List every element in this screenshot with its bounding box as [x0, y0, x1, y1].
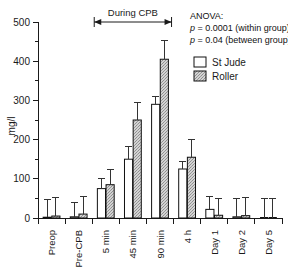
bar-st-jude — [206, 209, 214, 218]
legend-label-st-jude: St Jude — [212, 57, 246, 68]
serum-concentration-bar-chart: 0100200300400500 PreopPre-CPB5 min45 min… — [0, 0, 288, 273]
anova-between-group-line: p = 0.04 (between group) — [189, 35, 288, 45]
category-label: 4 h — [182, 230, 193, 243]
legend-label-roller: Roller — [212, 71, 239, 82]
y-axis-tick-label: 0 — [24, 213, 30, 224]
category-label: Preop — [46, 230, 57, 255]
y-axis-tick-label: 500 — [13, 17, 30, 28]
bar-roller — [160, 59, 168, 218]
bar-roller — [187, 157, 195, 218]
bar-st-jude — [43, 217, 51, 218]
bar-roller — [79, 214, 87, 218]
chart-figure: 0100200300400500 PreopPre-CPB5 min45 min… — [0, 0, 288, 273]
legend-swatch-st-jude — [194, 57, 206, 67]
y-axis-tick-label: 100 — [13, 173, 30, 184]
span-label-during-cpb: During CPB — [108, 7, 158, 18]
anova-heading: ANOVA: — [190, 11, 223, 21]
y-axis-title: mg/l — [6, 117, 17, 136]
anova-within-group-line: p = 0.0001 (within group) — [189, 23, 288, 33]
category-label: Pre-CPB — [73, 230, 84, 267]
y-axis-tick-label: 400 — [13, 56, 30, 67]
category-label: Day 2 — [236, 230, 247, 255]
legend-swatch-roller — [194, 71, 206, 81]
bar-st-jude — [179, 169, 187, 218]
bar-roller — [214, 215, 222, 218]
y-axis-tick-label: 300 — [13, 95, 30, 106]
bar-roller — [106, 185, 114, 218]
bar-roller — [133, 120, 141, 218]
bar-st-jude — [152, 104, 160, 218]
bar-roller — [52, 216, 60, 218]
bar-st-jude — [97, 189, 105, 218]
category-label: 5 min — [100, 230, 111, 253]
category-label: 45 min — [127, 230, 138, 259]
bar-st-jude — [70, 217, 78, 218]
bar-st-jude — [233, 217, 241, 218]
category-label: Day 5 — [263, 230, 274, 255]
bar-st-jude — [124, 159, 132, 218]
bar-roller — [242, 216, 250, 218]
category-label: 90 min — [155, 230, 166, 259]
category-label: Day 1 — [209, 230, 220, 255]
